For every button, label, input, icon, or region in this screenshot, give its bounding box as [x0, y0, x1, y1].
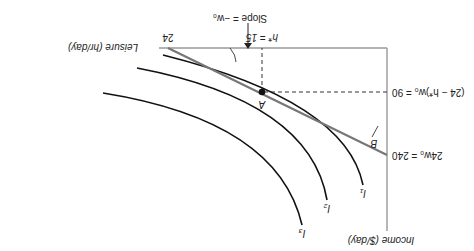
income-axis-label: Income ($/day) — [348, 235, 415, 246]
income-at-optimum-label: (24 − h*)w₀ = 90 — [392, 87, 465, 98]
budget-line — [168, 48, 387, 155]
income-intercept-label: 24w₀ = 240 — [392, 150, 443, 161]
labor-leisure-diagram: Income ($/day) Leisure (hr/day) 24 24w₀ … — [0, 0, 474, 251]
budget-label-leader — [372, 126, 378, 137]
leisure-at-optimum-label: h* = 15 — [246, 32, 278, 43]
optimum-point-label: A — [258, 99, 266, 110]
slope-label: Slope = −w₀ — [213, 13, 267, 24]
indifference-curve-1 — [163, 55, 363, 185]
leisure-axis-label: Leisure (hr/day) — [68, 42, 138, 53]
leisure-max-tick: 24 — [162, 32, 174, 43]
indifference-curve-3-label: I₃ — [299, 228, 306, 239]
indifference-curve-1-label: I₁ — [360, 188, 366, 199]
indifference-curve-3 — [103, 93, 302, 225]
indifference-curve-2-label: I₂ — [324, 203, 331, 214]
slope-angle-arc — [230, 48, 236, 62]
budget-line-label: B — [370, 138, 377, 149]
optimum-point — [259, 89, 266, 96]
